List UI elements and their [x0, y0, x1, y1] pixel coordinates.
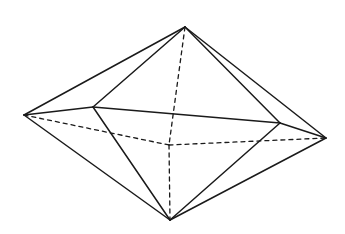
edge-left-front_left — [24, 107, 93, 115]
hidden-edge-center-bottom — [169, 145, 170, 220]
octahedron-figure — [0, 0, 345, 234]
edge-front_right-right — [280, 123, 326, 138]
octahedron-diagram — [0, 0, 345, 234]
edge-front_left-bottom — [93, 107, 170, 220]
edge-top-front_right — [185, 27, 280, 123]
edge-top-left — [24, 27, 185, 115]
hidden-edge-center-right — [169, 138, 326, 145]
edge-top-front_left — [93, 27, 185, 107]
hidden-edge-top-center — [169, 27, 185, 145]
edge-front_left-front_right — [93, 107, 280, 123]
